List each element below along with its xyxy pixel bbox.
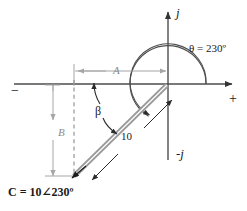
dimension-a xyxy=(74,64,166,86)
imaginary-positive-axis-label: j xyxy=(176,6,180,19)
magnitude-leaders xyxy=(92,100,172,180)
phasor-diagram: j -j + − θ = 230º A B β 10 C = 10∠230º xyxy=(0,0,247,211)
theta-angle-label: θ = 230º xyxy=(189,43,226,54)
beta-angle-label: β xyxy=(95,105,101,117)
real-negative-axis-label: − xyxy=(11,84,19,98)
imaginary-negative-axis-label: -j xyxy=(176,147,184,160)
horizontal-component-label: A xyxy=(113,65,120,76)
vertical-component-label: B xyxy=(58,127,65,138)
theta-arc xyxy=(130,44,226,143)
magnitude-label: 10 xyxy=(121,131,132,142)
result-label: C = 10∠230º xyxy=(8,186,74,198)
diagram-canvas xyxy=(0,0,247,211)
real-positive-axis-label: + xyxy=(229,92,237,106)
